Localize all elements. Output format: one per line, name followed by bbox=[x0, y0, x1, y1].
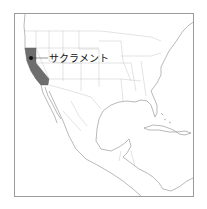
atlantic-coastline bbox=[151, 21, 194, 91]
map-canvas bbox=[15, 14, 194, 197]
cuba bbox=[144, 125, 177, 132]
sacramento-marker bbox=[29, 56, 33, 60]
california-highlight bbox=[25, 48, 49, 85]
sacramento-label: サクラメント bbox=[49, 50, 109, 65]
map-frame bbox=[14, 13, 194, 197]
gulf-coastline bbox=[96, 91, 157, 141]
us-mexico-border bbox=[49, 85, 101, 109]
mexico-pacific-coastline bbox=[49, 91, 141, 196]
